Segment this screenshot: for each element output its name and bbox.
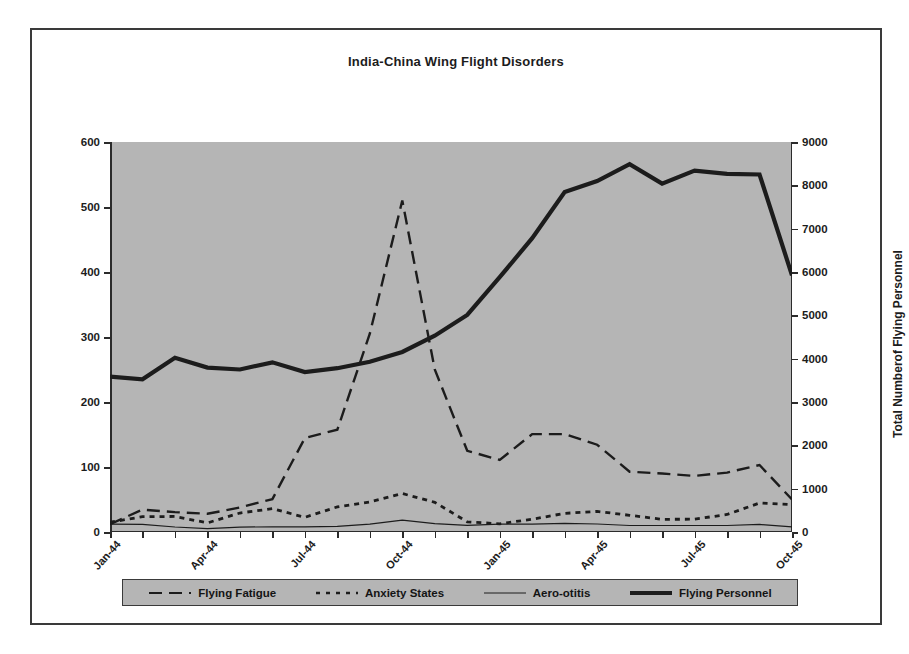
bottom-tick-mark [337,532,339,538]
bottom-tick-mark [597,532,599,538]
legend-label: Anxiety States [365,587,444,599]
bottom-tick-mark [500,532,502,538]
bottom-tick-label: Apr-45 [578,538,610,572]
right-tick-label: 5000 [802,309,828,321]
right-axis-title: Total Numberof Flying Personnel [891,250,905,438]
right-tick-label: 8000 [802,179,828,191]
left-tick-label: 0 [94,526,100,538]
bottom-tick-mark [695,532,697,538]
chart-title: India-China Wing Flight Disorders [32,54,880,69]
right-tick-label: 3000 [802,396,828,408]
bottom-tick-label: Jan-44 [91,538,123,572]
right-tick-mark [792,272,798,274]
bottom-tick-mark [142,532,144,538]
series-lines [110,142,792,532]
left-tick-label: 100 [81,461,100,473]
bottom-tick-label: Jan-45 [480,538,512,572]
bottom-tick-label: Jul-45 [677,538,707,570]
left-tick-label: 200 [81,396,100,408]
bottom-tick-label: Apr-44 [188,538,220,572]
right-tick-label: 9000 [802,136,828,148]
legend-swatch-icon [148,587,192,599]
right-tick-mark [792,315,798,317]
bottom-tick-mark [435,532,437,538]
bottom-tick-mark [207,532,209,538]
left-tick-label: 400 [81,266,100,278]
bottom-tick-mark [272,532,274,538]
right-tick-mark [792,185,798,187]
legend-label: Flying Personnel [679,587,772,599]
right-tick-label: 4000 [802,353,828,365]
bottom-tick-mark [305,532,307,538]
bottom-tick-label: Oct-44 [383,538,415,571]
right-tick-label: 1000 [802,483,828,495]
right-tick-label: 0 [802,526,808,538]
bottom-tick-mark [727,532,729,538]
bottom-tick-mark [110,532,112,538]
right-tick-mark [792,445,798,447]
figure-frame: India-China Wing Flight Disorders Cases … [30,28,882,625]
legend-item-flying-personnel[interactable]: Flying Personnel [629,587,772,599]
bottom-tick-label: Oct-45 [773,538,805,571]
right-tick-mark [792,359,798,361]
series-line-anxiety-states [110,494,792,524]
bottom-tick-mark [760,532,762,538]
legend-swatch-icon [629,587,673,599]
bottom-tick-mark [662,532,664,538]
legend-item-aero-otitis[interactable]: Aero-otitis [483,587,591,599]
bottom-tick-mark [370,532,372,538]
legend-item-anxiety-states[interactable]: Anxiety States [315,587,444,599]
left-tick-label: 500 [81,201,100,213]
bottom-tick-mark [792,532,794,538]
series-line-flying-fatigue [110,201,792,525]
left-tick-label: 300 [81,331,100,343]
legend-swatch-icon [483,587,527,599]
bottom-tick-mark [532,532,534,538]
legend-label: Aero-otitis [533,587,591,599]
right-tick-mark [792,402,798,404]
bottom-tick-mark [630,532,632,538]
right-tick-mark [792,489,798,491]
right-tick-mark [792,142,798,144]
legend: Flying FatigueAnxiety StatesAero-otitisF… [122,579,798,606]
legend-swatch-icon [315,587,359,599]
right-tick-label: 7000 [802,223,828,235]
bottom-tick-mark [175,532,177,538]
bottom-tick-mark [467,532,469,538]
series-line-flying-personnel [110,164,792,379]
left-tick-label: 600 [81,136,100,148]
bottom-tick-mark [240,532,242,538]
plot-area: 0100200300400500600 01000200030004000500… [110,142,792,532]
legend-item-flying-fatigue[interactable]: Flying Fatigue [148,587,276,599]
right-tick-mark [792,229,798,231]
bottom-tick-mark [402,532,404,538]
legend-label: Flying Fatigue [198,587,276,599]
right-tick-label: 2000 [802,439,828,451]
right-tick-label: 6000 [802,266,828,278]
bottom-tick-label: Jul-44 [288,538,318,570]
bottom-tick-mark [565,532,567,538]
